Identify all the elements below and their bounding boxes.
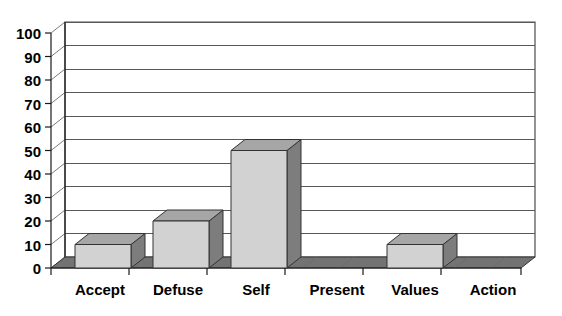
y-tick-label-10: 10 [24,237,41,254]
y-tick-label-20: 20 [24,213,41,230]
y-tick-label-40: 40 [24,166,41,183]
x-label-self: Self [242,281,271,298]
y-tick-label-50: 50 [24,143,41,160]
bar-accept[interactable] [75,234,145,269]
bar-values[interactable] [387,234,457,269]
y-tick-label-30: 30 [24,190,41,207]
x-axis-labels: Accept Defuse Self Present Values Action [75,281,516,298]
bar-chart: 100 90 80 70 60 50 40 30 20 10 0 [0,0,562,316]
x-label-action: Action [470,281,517,298]
x-axis-ticks [51,268,521,275]
y-tick-label-90: 90 [24,49,41,66]
x-label-defuse: Defuse [153,281,203,298]
chart-canvas: 100 90 80 70 60 50 40 30 20 10 0 [0,0,562,316]
y-tick-label-60: 60 [24,119,41,136]
y-tick-label-80: 80 [24,72,41,89]
bar-self[interactable] [231,140,301,269]
left-side-wall [51,22,65,268]
x-label-values: Values [391,281,439,298]
x-label-present: Present [309,281,364,298]
bar-defuse[interactable] [153,210,223,268]
y-tick-label-0: 0 [33,260,41,277]
y-tick-label-100: 100 [16,25,41,42]
y-tick-label-70: 70 [24,96,41,113]
x-label-accept: Accept [75,281,125,298]
y-axis-ticks: 100 90 80 70 60 50 40 30 20 10 0 [16,25,51,277]
